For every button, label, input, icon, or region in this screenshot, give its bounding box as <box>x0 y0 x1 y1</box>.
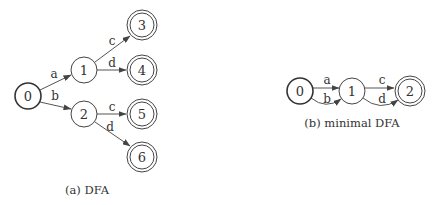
state-2: 2 <box>71 101 97 127</box>
edge-label: d <box>108 56 116 70</box>
svg-text:3: 3 <box>138 18 146 33</box>
edge-1-2-d: d <box>363 92 398 106</box>
dfa-figure: a b c d c d 0 1 <box>0 0 442 205</box>
edge-1-2-c: c <box>365 73 394 88</box>
edge-label: d <box>106 120 114 134</box>
figure-a-dfa: a b c d c d 0 1 <box>15 10 157 197</box>
figure-b-caption: (b) minimal DFA <box>304 116 400 130</box>
svg-text:2: 2 <box>406 84 414 99</box>
svg-text:6: 6 <box>138 150 146 165</box>
edge-0-2-b: b <box>40 89 71 109</box>
state-3-accepting: 3 <box>127 10 157 40</box>
edge-label: b <box>323 92 331 106</box>
edge-label: d <box>378 92 386 106</box>
state-4-accepting: 4 <box>127 55 157 85</box>
edge-0-1-a: a <box>40 67 71 90</box>
state-0-start: 0 <box>287 78 313 104</box>
edge-label: c <box>109 34 116 48</box>
edge-2-6-d: d <box>95 120 130 146</box>
edge-1-4-d: d <box>97 56 126 70</box>
state-1: 1 <box>71 57 97 83</box>
state-6-accepting: 6 <box>127 142 157 172</box>
edge-label: a <box>50 67 57 81</box>
svg-text:0: 0 <box>296 84 304 99</box>
state-2-accepting: 2 <box>395 76 425 106</box>
edge-label: c <box>379 73 386 87</box>
edge-label: c <box>109 100 116 114</box>
svg-text:0: 0 <box>24 89 32 104</box>
figure-a-caption: (a) DFA <box>65 183 110 197</box>
state-5-accepting: 5 <box>127 99 157 129</box>
svg-text:1: 1 <box>80 63 88 78</box>
figure-b-minimal-dfa: a b c d 0 1 2 (b) minimal DFA <box>287 73 425 130</box>
edge-label: b <box>51 89 59 103</box>
svg-text:2: 2 <box>80 107 88 122</box>
state-0-start: 0 <box>15 83 41 109</box>
state-1: 1 <box>339 78 365 104</box>
svg-text:5: 5 <box>138 107 146 122</box>
svg-text:1: 1 <box>348 84 356 99</box>
edge-label: a <box>323 73 330 87</box>
edge-0-1-b: b <box>311 92 341 106</box>
edge-0-1-a: a <box>313 73 339 88</box>
svg-text:4: 4 <box>138 63 146 78</box>
edge-2-5-c: c <box>97 100 126 114</box>
